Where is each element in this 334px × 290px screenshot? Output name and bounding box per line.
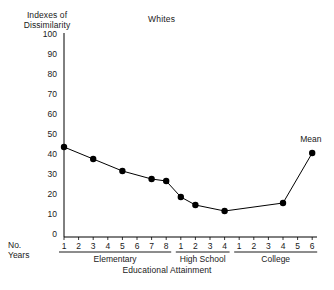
data-point-marker [148, 176, 154, 182]
data-point-marker [119, 168, 125, 174]
data-point-marker [61, 144, 67, 150]
data-point-marker [178, 194, 184, 200]
plot-area [0, 0, 334, 290]
chart-container: Indexes of Dissimilarity Whites No. Year… [0, 0, 334, 290]
data-point-marker [90, 156, 96, 162]
data-series-line [64, 147, 312, 211]
data-point-marker [280, 200, 286, 206]
data-point-marker [309, 150, 315, 156]
data-point-marker [192, 202, 198, 208]
data-point-marker [221, 208, 227, 214]
data-point-marker [163, 178, 169, 184]
